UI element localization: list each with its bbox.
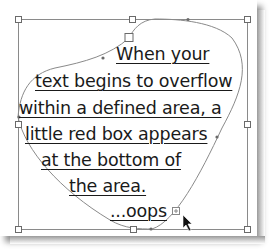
text-line: text begins to overflow: [35, 71, 232, 91]
text-line: at the bottom of: [41, 150, 181, 170]
text-line: little red box appears: [25, 124, 207, 144]
text-frame[interactable]: When your text begins to overflow within…: [0, 0, 271, 249]
text-line: the area.: [69, 176, 146, 196]
text-line-overflow: ...oops: [110, 201, 167, 221]
text-line: When your: [116, 44, 209, 64]
text-line: within a defined area, a: [19, 98, 221, 118]
